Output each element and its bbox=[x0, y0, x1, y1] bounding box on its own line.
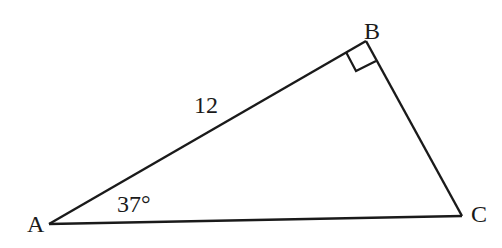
triangle-diagram: A B C 12 37° bbox=[0, 0, 502, 248]
vertex-label-c: C bbox=[471, 201, 487, 227]
side-ab-length-label: 12 bbox=[194, 92, 218, 118]
triangle-abc bbox=[49, 41, 462, 224]
vertex-label-a: A bbox=[27, 211, 45, 237]
angle-a-label: 37° bbox=[117, 191, 151, 217]
right-angle-marker bbox=[346, 52, 376, 71]
side-ac bbox=[49, 216, 462, 224]
side-ab bbox=[49, 41, 366, 224]
side-bc bbox=[366, 41, 462, 216]
vertex-label-b: B bbox=[364, 18, 380, 44]
